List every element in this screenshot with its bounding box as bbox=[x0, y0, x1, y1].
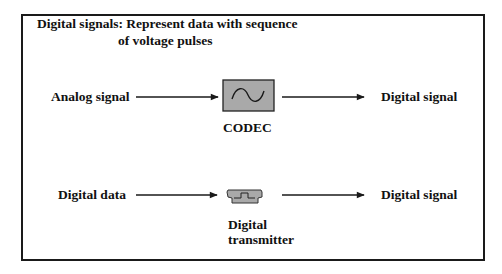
digital-transmitter-device bbox=[227, 190, 262, 203]
diagram-graphics bbox=[0, 0, 502, 274]
codec-box bbox=[223, 80, 274, 111]
